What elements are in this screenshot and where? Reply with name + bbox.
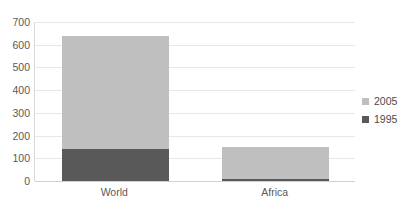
stacked-bar-chart: 700 600 500 400 300 200 100 0 World Afri… — [0, 0, 414, 213]
y-axis-tick-label: 700 — [0, 17, 30, 28]
y-axis-tick-labels: 700 600 500 400 300 200 100 0 — [0, 22, 30, 181]
bar-segment-africa-2005[interactable] — [222, 147, 329, 179]
y-axis-tick-label: 100 — [0, 153, 30, 164]
x-axis-category-label: World — [101, 186, 128, 199]
bar-segment-africa-1995[interactable] — [222, 179, 329, 181]
y-axis-tick-label: 0 — [0, 176, 30, 187]
x-axis-category-labels: World Africa — [34, 186, 355, 206]
legend-item-2005[interactable]: 2005 — [362, 92, 414, 110]
y-axis-tick-label: 500 — [0, 62, 30, 73]
legend-label-2005: 2005 — [374, 96, 397, 107]
gridline — [35, 181, 355, 182]
bars-layer — [35, 22, 355, 181]
chart-legend: 2005 1995 — [362, 92, 414, 128]
bar-group-world — [62, 22, 169, 181]
legend-swatch-icon-1995 — [362, 116, 369, 123]
y-axis-tick-label: 600 — [0, 39, 30, 50]
bar-segment-world-1995[interactable] — [62, 149, 169, 181]
bar-segment-world-2005[interactable] — [62, 36, 169, 150]
y-axis-tick-label: 400 — [0, 85, 30, 96]
bar-group-africa — [222, 22, 329, 181]
y-axis-tick-label: 300 — [0, 108, 30, 119]
legend-swatch-icon-2005 — [362, 98, 369, 105]
x-axis-category-label: Africa — [261, 186, 288, 199]
legend-item-1995[interactable]: 1995 — [362, 110, 414, 128]
y-axis-tick-label: 200 — [0, 130, 30, 141]
legend-label-1995: 1995 — [374, 114, 397, 125]
plot-area — [34, 22, 355, 181]
